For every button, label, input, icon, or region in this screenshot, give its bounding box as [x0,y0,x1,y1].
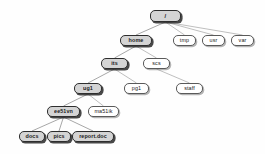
tree-edge-ug1-to-ee51vn [64,94,89,106]
tree-node-report[interactable]: report.doc [72,131,114,142]
tree-edge-ee51vn-to-pics [59,117,64,131]
tree-node-label: ee51vn [54,109,73,115]
tree-node-label: pics [53,134,64,140]
tree-edge-scs-to-staff [157,69,190,83]
tree-edge-its-to-ug1 [88,69,115,83]
tree-node-usr[interactable]: usr [202,35,225,46]
tree-node-label: pg1 [132,86,141,92]
tree-node-label: tmp [180,38,189,44]
tree-node-root[interactable]: / [150,10,181,22]
tree-node-label: docs [26,134,39,140]
filesystem-tree-diagram: /hometmpusrvaritsscsug1pg1staffee51vnma5… [0,0,265,154]
tree-edge-ug1-to-ma51ik [88,94,104,106]
tree-edge-home-to-scs [136,46,157,58]
tree-node-home[interactable]: home [120,35,152,46]
tree-node-scs[interactable]: scs [143,58,170,69]
tree-node-ee51vn[interactable]: ee51vn [47,106,80,117]
tree-node-label: its [111,61,118,67]
tree-node-ma51ik[interactable]: ma51ik [88,106,119,117]
tree-node-label: usr [210,38,218,44]
tree-edge-root-to-home [136,22,166,35]
tree-node-ug1[interactable]: ug1 [74,83,102,94]
tree-edge-ee51vn-to-report [64,117,94,131]
tree-edge-its-to-pg1 [115,69,137,83]
tree-edge-home-to-its [115,46,137,58]
tree-edge-ee51vn-to-docs [32,117,64,131]
tree-node-var[interactable]: var [231,35,254,46]
tree-node-staff[interactable]: staff [176,83,203,94]
tree-node-label: scs [152,61,160,67]
tree-node-pics[interactable]: pics [47,131,71,142]
tree-node-label: home [129,38,144,44]
tree-edge-root-to-var [166,22,243,35]
tree-node-label: / [165,13,167,19]
tree-node-label: report.doc [79,134,107,140]
tree-node-tmp[interactable]: tmp [173,35,196,46]
tree-edge-root-to-usr [166,22,214,35]
tree-edge-root-to-tmp [166,22,185,35]
tree-node-label: staff [184,86,195,92]
tree-node-label: ma51ik [95,109,113,115]
tree-node-pg1[interactable]: pg1 [124,83,149,94]
tree-node-label: ug1 [83,86,93,92]
tree-node-label: var [239,38,247,44]
tree-node-its[interactable]: its [101,58,128,69]
tree-node-docs[interactable]: docs [19,131,45,142]
